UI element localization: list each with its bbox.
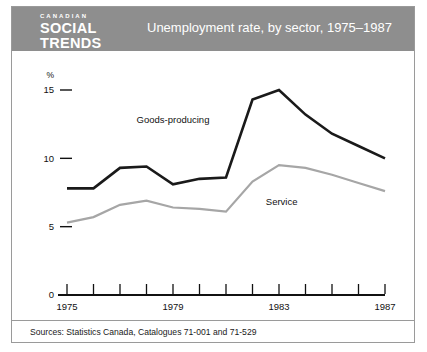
series-annotations: Goods-producingService — [137, 114, 298, 207]
series-line-goods-producing — [67, 90, 385, 188]
x-tick-label: 1975 — [56, 301, 77, 312]
chart-header-banner: CANADIAN SOCIAL TRENDS Unemployment rate… — [12, 7, 414, 51]
line-chart: %051015 1975197919831987 Goods-producing… — [12, 51, 414, 320]
x-tick-label: 1979 — [162, 301, 183, 312]
plot-area: %051015 1975197919831987 Goods-producing… — [12, 51, 414, 320]
series-lines — [67, 90, 385, 223]
series-label-goods-producing: Goods-producing — [137, 114, 210, 125]
y-axis-unit-label: % — [46, 70, 54, 80]
source-divider — [12, 320, 414, 321]
x-axis: 1975197919831987 — [56, 284, 395, 312]
y-tick-label: 5 — [49, 221, 54, 232]
series-label-service: Service — [266, 196, 298, 207]
publication-logo: CANADIAN SOCIAL TRENDS — [40, 12, 132, 51]
brand-line-1: SOCIAL — [40, 21, 132, 36]
y-tick-label: 10 — [43, 153, 54, 164]
x-tick-label: 1987 — [374, 301, 395, 312]
x-tick-label: 1983 — [268, 301, 289, 312]
y-tick-label: 15 — [43, 84, 54, 95]
chart-title: Unemployment rate, by sector, 1975–1987 — [147, 20, 392, 35]
figure-root: CANADIAN SOCIAL TRENDS Unemployment rate… — [0, 0, 427, 352]
y-axis: %051015 — [43, 70, 72, 300]
y-tick-label: 0 — [49, 289, 54, 300]
sources-note: Sources: Statistics Canada, Catalogues 7… — [30, 327, 256, 337]
brand-line-2: TRENDS — [40, 36, 132, 51]
